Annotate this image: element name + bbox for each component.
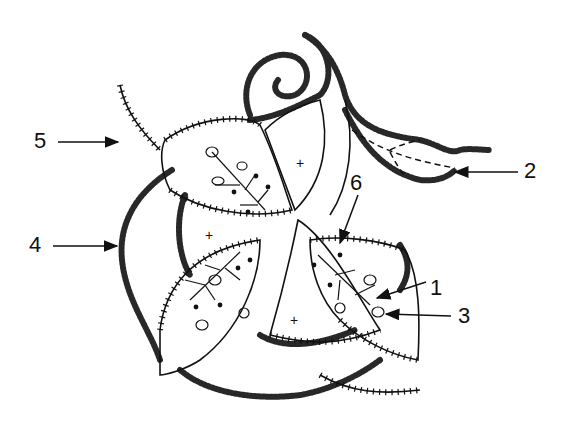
label-5: 5 [34,130,46,152]
label-1: 1 [430,277,442,299]
label-6: 6 [350,172,362,194]
label-2: 2 [524,160,536,182]
svg-text:+: + [296,155,304,171]
label-4: 4 [29,234,41,256]
embroidery-diagram: + + + [0,0,567,441]
chain-stitch-lines [122,35,490,397]
svg-text:+: + [205,227,213,243]
svg-text:+: + [290,312,298,328]
label-3: 3 [458,305,470,327]
